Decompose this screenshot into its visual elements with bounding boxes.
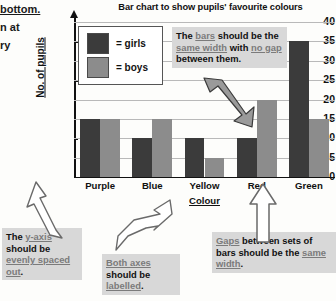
legend-label-boys: = boys [116, 62, 148, 73]
annotation-bars-width: The bars should be the same width with n… [172, 27, 287, 68]
annotation-keyword: evenly spaced out [6, 254, 70, 277]
bar-purple-boys [100, 119, 120, 177]
annotation-keyword: labelled [106, 280, 141, 291]
bar-blue-girls [132, 138, 152, 177]
annotation-keyword: bars [195, 30, 215, 41]
y-tick-mark [74, 177, 78, 178]
bar-green-boys [309, 119, 329, 177]
margin-line: bottom. [0, 0, 46, 18]
legend-swatch-boys-icon [87, 57, 109, 78]
legend-swatch-girls-icon [87, 33, 109, 54]
annotation-text: . [141, 280, 144, 291]
annotation-text: should be [106, 269, 150, 280]
annotation-text: with [227, 42, 251, 53]
legend-row-girls: = girls [87, 33, 146, 54]
x-tick-label-purple: Purple [74, 180, 126, 191]
bar-yellow-girls [185, 138, 205, 177]
y-axis-label: No. of pupils [35, 20, 46, 116]
bar-green-girls [289, 41, 309, 177]
bar-red-girls [237, 138, 257, 177]
annotation-text: should be [6, 243, 50, 254]
annotation-text: The [176, 30, 195, 41]
bar-purple-girls [80, 119, 100, 177]
annotation-text: . [21, 266, 24, 277]
annotation-keyword: Both axes [106, 257, 151, 268]
x-tick-label-blue: Blue [126, 180, 178, 191]
annotation-keyword: same width [176, 42, 227, 53]
legend-label-girls: = girls [116, 38, 146, 49]
chart-legend: = girls= boys [78, 26, 163, 85]
callout-arrow-y-axis-icon [20, 180, 66, 242]
annotation-text: should be the [215, 30, 279, 41]
annotation-text: between them. [176, 53, 241, 64]
annotation-keyword: no gap [251, 42, 282, 53]
callout-arrow-gaps-icon [248, 182, 278, 244]
callout-arrow-bars-icon [200, 74, 260, 132]
bar-yellow-boys [205, 158, 225, 177]
bar-blue-boys [152, 119, 172, 177]
annotation-keyword: Gaps [216, 235, 239, 246]
callout-arrow-axes-icon [106, 196, 174, 252]
chart-title: Bar chart to show pupils' favourite colo… [86, 2, 335, 12]
annotation-text: . [240, 258, 243, 269]
x-tick-label-green: Green [283, 180, 335, 191]
annotation-label-axes: Both axes should be labelled. [102, 254, 180, 295]
legend-row-boys: = boys [87, 57, 148, 78]
x-tick-label-yellow: Yellow [178, 180, 230, 191]
